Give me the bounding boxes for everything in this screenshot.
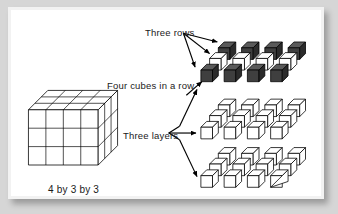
- label-three-rows: Three rows: [145, 28, 195, 38]
- figure-root: Three rows Four cubes in a row Three lay…: [0, 0, 338, 214]
- figure-panel: Three rows Four cubes in a row Three lay…: [8, 7, 324, 199]
- solid-block-4x3x3: [28, 90, 117, 165]
- middle-layer: [201, 99, 306, 139]
- bottom-layer: [201, 148, 306, 188]
- label-three-layers: Three layers: [123, 131, 178, 141]
- top-layer: [201, 42, 306, 82]
- label-four-cubes-in-a-row: Four cubes in a row: [107, 81, 194, 91]
- label-dimensions-caption: 4 by 3 by 3: [48, 185, 99, 195]
